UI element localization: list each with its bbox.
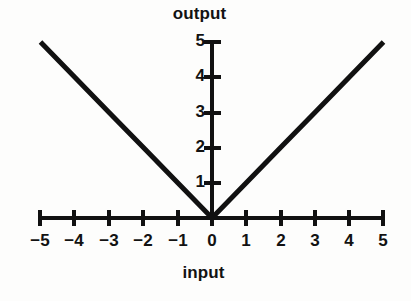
y-tick-label: 4: [185, 66, 205, 86]
y-tick-label: 5: [185, 31, 205, 51]
x-tick-label: −1: [161, 231, 195, 251]
x-tick-label: 2: [264, 231, 298, 251]
y-tick-label: 3: [185, 102, 205, 122]
plot-area: [0, 0, 411, 301]
x-axis-title: input: [0, 263, 409, 283]
x-tick-label: −2: [126, 231, 160, 251]
x-tick-label: −5: [23, 231, 57, 251]
x-tick-label: 1: [229, 231, 263, 251]
x-tick-label: 0: [195, 231, 229, 251]
x-tick-label: −3: [92, 231, 126, 251]
x-tick-label: 4: [332, 231, 366, 251]
y-axis-title: output: [0, 4, 405, 24]
y-tick-label: 2: [185, 137, 205, 157]
x-tick-label: 5: [366, 231, 400, 251]
x-tick-label: 3: [298, 231, 332, 251]
x-tick-label: −4: [57, 231, 91, 251]
figure-canvas: output input −5 −4 −3 −2 −1 0 1 2 3 4 5 …: [0, 0, 411, 301]
y-tick-label: 1: [185, 172, 205, 192]
